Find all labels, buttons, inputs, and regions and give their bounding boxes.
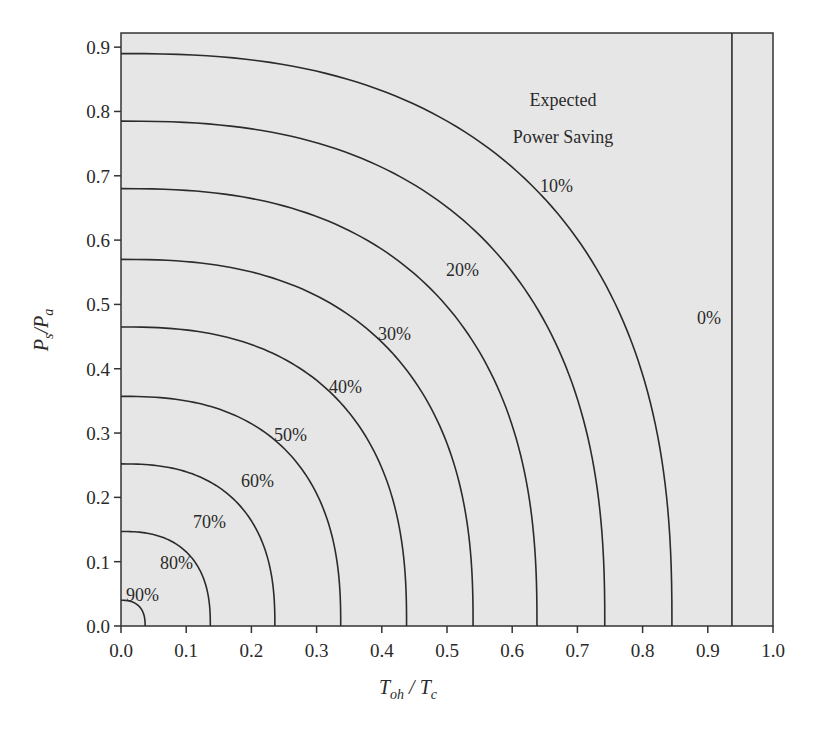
annotation-subtitle: Power Saving xyxy=(513,127,614,147)
curve-label: 70% xyxy=(193,512,226,532)
x-tick-label: 0.9 xyxy=(696,640,720,661)
curve-label: 90% xyxy=(126,585,159,605)
x-tick-label: 0.6 xyxy=(500,640,524,661)
y-tick-label: 0.4 xyxy=(86,359,110,380)
y-tick-label: 0.3 xyxy=(86,423,110,444)
y-tick-label: 0.5 xyxy=(86,294,110,315)
curve-label: 50% xyxy=(274,425,307,445)
x-axis-label: Toh / Tc xyxy=(379,676,438,702)
x-tick-label: 0.1 xyxy=(174,640,198,661)
chart: 0.00.10.20.30.40.50.60.70.80.91.0 0.00.1… xyxy=(0,0,826,734)
x-tick-label: 1.0 xyxy=(761,640,785,661)
x-tick-label: 0.3 xyxy=(305,640,329,661)
y-tick-label: 0.6 xyxy=(86,230,110,251)
curve-label: 40% xyxy=(329,377,362,397)
curve-label: 20% xyxy=(446,260,479,280)
y-tick-label: 0.9 xyxy=(86,37,110,58)
curve-label: 30% xyxy=(378,324,411,344)
y-tick-label: 0.1 xyxy=(86,552,110,573)
x-tick-label: 0.0 xyxy=(109,640,133,661)
x-tick-label: 0.5 xyxy=(435,640,459,661)
y-tick-label: 0.0 xyxy=(86,616,110,637)
y-axis-label: Ps/Pa xyxy=(30,309,56,352)
y-tick-label: 0.8 xyxy=(86,101,110,122)
curve-label: 10% xyxy=(540,176,573,196)
annotation-title: Expected xyxy=(530,90,597,110)
y-tick-label: 0.7 xyxy=(86,166,110,187)
x-tick-label: 0.2 xyxy=(240,640,264,661)
x-tick-label: 0.8 xyxy=(631,640,655,661)
x-axis-ticks: 0.00.10.20.30.40.50.60.70.80.91.0 xyxy=(109,626,785,661)
curve-label: 80% xyxy=(160,553,193,573)
curve-label: 60% xyxy=(241,471,274,491)
x-tick-label: 0.4 xyxy=(370,640,394,661)
y-tick-label: 0.2 xyxy=(86,487,110,508)
x-tick-label: 0.7 xyxy=(566,640,590,661)
curve-label: 0% xyxy=(697,308,721,328)
y-axis-ticks: 0.00.10.20.30.40.50.60.70.80.9 xyxy=(86,37,121,637)
